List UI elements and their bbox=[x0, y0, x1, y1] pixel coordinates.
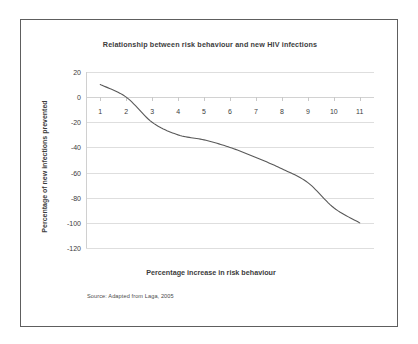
y-tick-label-6: -100 bbox=[67, 219, 81, 226]
y-tick-label-3: -40 bbox=[71, 144, 81, 151]
plot-area: 200-20-40-60-80-100-120 1234567891011 bbox=[86, 72, 374, 248]
y-tick-label-1: 0 bbox=[77, 94, 81, 101]
source-note: Source: Adapted from Laga, 2005 bbox=[87, 293, 174, 299]
plot-wrapper: Percentage of new infections prevented 2… bbox=[21, 20, 399, 328]
y-tick-label-2: -20 bbox=[71, 119, 81, 126]
y-axis-title: Percentage of new infections prevented bbox=[41, 87, 48, 247]
x-axis-title: Percentage increase in risk behaviour bbox=[61, 268, 361, 277]
y-tick-label-5: -80 bbox=[71, 194, 81, 201]
y-tick-label-7: -120 bbox=[67, 245, 81, 252]
figure-frame: Relationship between risk behaviour and … bbox=[20, 19, 398, 327]
gridline-y--120 bbox=[86, 248, 374, 249]
y-tick-label-4: -60 bbox=[71, 169, 81, 176]
y-tick-label-0: 20 bbox=[73, 69, 81, 76]
line-series bbox=[86, 72, 374, 248]
